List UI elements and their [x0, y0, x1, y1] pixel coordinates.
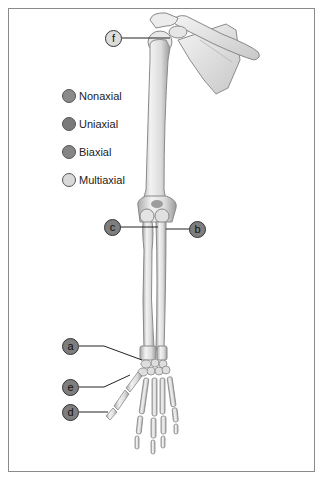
- legend-item-uniaxial: Uniaxial: [62, 116, 125, 132]
- legend-item-nonaxial: Nonaxial: [62, 88, 125, 104]
- legend-label: Biaxial: [79, 146, 111, 158]
- distal-forearm: [140, 346, 167, 360]
- ulna: [156, 222, 166, 350]
- legend-swatch-uniaxial: [62, 117, 76, 131]
- carpals: [138, 359, 170, 376]
- upper-limb-skeleton-illustration: [0, 0, 322, 480]
- humerus: [138, 31, 177, 222]
- joint-type-legend: Nonaxial Uniaxial Biaxial Multiaxial: [62, 88, 125, 200]
- legend-swatch-biaxial: [62, 145, 76, 159]
- callout-f[interactable]: f: [105, 30, 122, 47]
- legend-label: Multiaxial: [79, 174, 125, 186]
- callout-e[interactable]: e: [62, 379, 79, 396]
- callout-b[interactable]: b: [189, 221, 206, 238]
- thumb: [106, 372, 142, 420]
- legend-swatch-multiaxial: [62, 173, 76, 187]
- legend-item-biaxial: Biaxial: [62, 144, 125, 160]
- leader-line-e: [79, 375, 130, 387]
- legend-label: Nonaxial: [79, 90, 122, 102]
- callout-a[interactable]: a: [62, 338, 79, 355]
- legend-label: Uniaxial: [79, 118, 118, 130]
- callout-c[interactable]: c: [104, 219, 121, 236]
- fingers: [135, 377, 178, 454]
- legend-item-multiaxial: Multiaxial: [62, 172, 125, 188]
- callout-d[interactable]: d: [62, 404, 79, 421]
- legend-swatch-nonaxial: [62, 89, 76, 103]
- radius: [143, 222, 154, 350]
- leader-line-a: [79, 346, 142, 360]
